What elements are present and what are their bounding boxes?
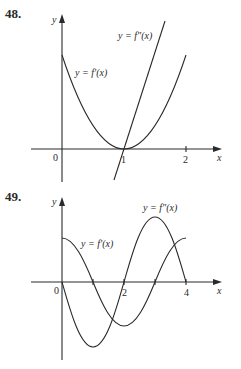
x-axis-label: x bbox=[216, 285, 222, 296]
tick-0: 0 bbox=[53, 152, 58, 163]
y-axis-label: y bbox=[51, 14, 57, 25]
chart-48: y x 0 1 2 y = f′(x) y = f″(x) bbox=[0, 0, 241, 185]
tick-0: 0 bbox=[54, 285, 59, 296]
f-double-prime-label: y = f″(x) bbox=[117, 30, 153, 42]
tick-2: 2 bbox=[122, 287, 127, 298]
f-double-prime-label: y = f″(x) bbox=[142, 202, 178, 214]
y-axis-arrow-icon bbox=[59, 197, 65, 206]
y-axis-label: y bbox=[51, 196, 57, 207]
tick-4: 4 bbox=[184, 287, 189, 298]
chart-49: y x 0 2 4 y = f′(x) y = f″(x) bbox=[0, 185, 241, 369]
y-axis-arrow-icon bbox=[59, 14, 65, 23]
x-axis-label: x bbox=[216, 152, 222, 163]
tick-1: 1 bbox=[121, 154, 126, 165]
f-prime-label: y = f′(x) bbox=[80, 238, 114, 250]
f-prime-label: y = f′(x) bbox=[74, 67, 108, 79]
tick-2: 2 bbox=[183, 154, 188, 165]
